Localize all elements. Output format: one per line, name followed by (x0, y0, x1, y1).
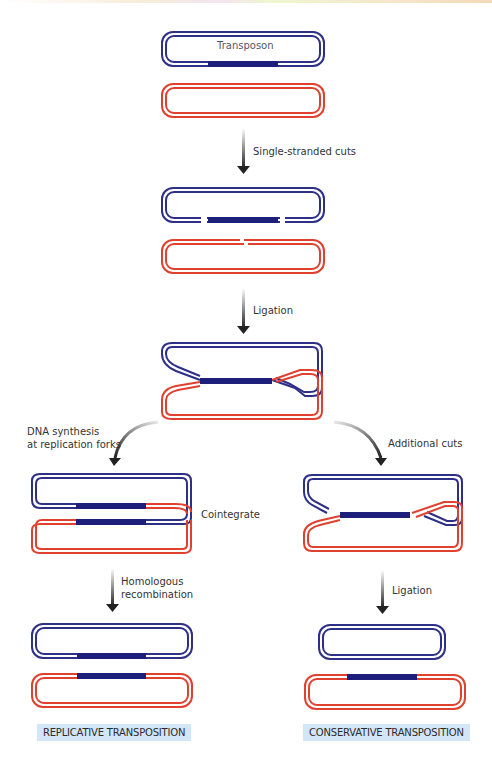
curved-arrow-right-icon (334, 422, 387, 466)
replicative-target-plasmid (32, 673, 192, 707)
step-ligation: Ligation (253, 304, 293, 317)
arrow-down-icon (376, 570, 389, 614)
conservative-donor-plasmid (319, 625, 445, 659)
result-replicative: REPLICATIVE TRANSPOSITION (37, 724, 191, 741)
arrow-down-icon (106, 568, 119, 612)
transposition-diagram (0, 0, 492, 764)
step-final-ligation: Ligation (392, 584, 432, 597)
replicative-donor-plasmid (32, 624, 192, 659)
step-homologous-line1: Homologous (121, 575, 183, 588)
target-plasmid-cut (162, 238, 324, 273)
strand-transfer-intermediate (162, 343, 322, 419)
step-additional-cuts: Additional cuts (388, 437, 462, 450)
transposon-label: Transposon (217, 40, 274, 51)
step-single-stranded-cuts: Single-stranded cuts (253, 145, 356, 158)
cut-intermediate (304, 475, 462, 551)
target-plasmid-initial (162, 84, 324, 117)
donor-plasmid-cut (162, 188, 324, 224)
step-dna-synthesis-line2: at replication forks (27, 438, 121, 451)
cointegrate (32, 474, 191, 553)
step-homologous-line2: recombination (121, 588, 193, 601)
arrow-down-icon (237, 288, 250, 334)
arrow-down-icon (237, 128, 250, 174)
conservative-target-plasmid (305, 674, 465, 709)
result-conservative: CONSERVATIVE TRANSPOSITION (303, 724, 470, 741)
cointegrate-label: Cointegrate (201, 508, 260, 521)
step-dna-synthesis-line1: DNA synthesis (27, 425, 99, 438)
